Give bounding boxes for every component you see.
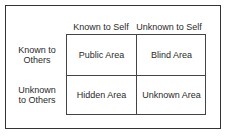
horizontal-divider [67, 75, 205, 76]
column-header-known-to-self: Known to Self [66, 22, 136, 32]
row-header-line: Unknown [10, 85, 64, 95]
column-header-unknown-to-self: Unknown to Self [134, 22, 204, 32]
row-header-known-to-others: Known to Others [10, 45, 64, 65]
johari-grid: Public Area Blind Area Hidden Area Unkno… [66, 34, 206, 115]
cell-blind-area: Blind Area [137, 50, 206, 60]
cell-hidden-area: Hidden Area [67, 90, 136, 100]
cell-unknown-area: Unknown Area [137, 90, 206, 100]
row-header-unknown-to-others: Unknown to Others [10, 85, 64, 105]
cell-public-area: Public Area [67, 50, 136, 60]
row-header-line: Others [10, 55, 64, 65]
row-header-line: to Others [10, 95, 64, 105]
row-header-line: Known to [10, 45, 64, 55]
